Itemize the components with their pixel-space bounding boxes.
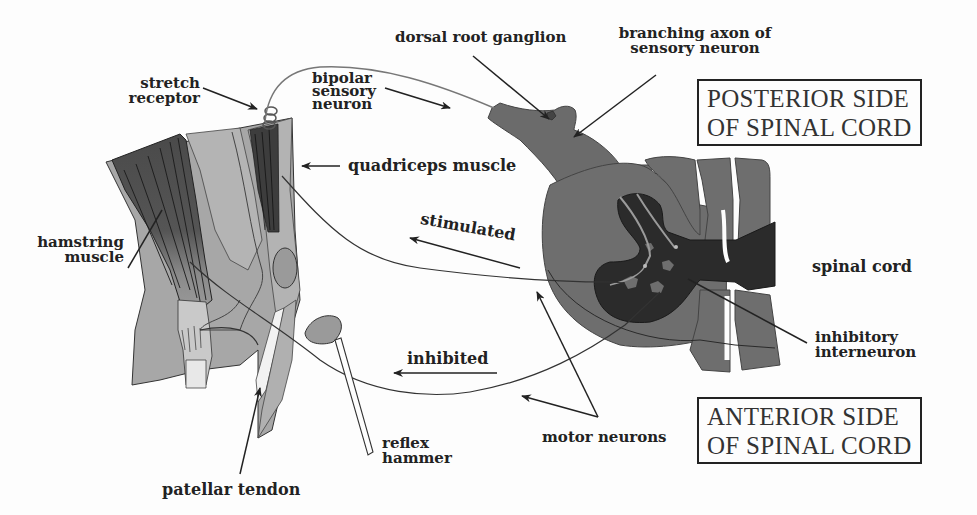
label-branching-axon: branching axon of sensory neuron (600, 26, 790, 56)
label-reflex-line2: hammer (382, 451, 452, 466)
label-dorsal-root-ganglion: dorsal root ganglion (395, 30, 566, 45)
posterior-box-line2: OF SPINAL CORD (707, 113, 912, 142)
label-patellar-tendon: patellar tendon (162, 482, 300, 497)
label-inhibitory-line2: interneuron (815, 345, 916, 360)
posterior-box-line1: POSTERIOR SIDE (707, 84, 912, 113)
anterior-side-box: ANTERIOR SIDE OF SPINAL CORD (697, 397, 922, 464)
label-bipolar-line3: neuron (312, 98, 376, 111)
label-stretch-receptor: stretch receptor (128, 76, 200, 106)
label-stretch-receptor-line2: receptor (128, 91, 200, 106)
label-hamstring-line2: muscle (28, 250, 124, 265)
label-spinal-cord: spinal cord (812, 259, 912, 274)
label-inhibited: inhibited (407, 351, 488, 366)
label-bipolar-sensory-neuron: bipolar sensory neuron (312, 72, 376, 111)
anterior-box-line1: ANTERIOR SIDE (707, 402, 912, 431)
label-motor-neurons: motor neurons (542, 430, 667, 445)
reflex-hammer (305, 316, 373, 455)
leg-knee-illustration (106, 107, 300, 438)
label-hamstring-muscle: hamstring muscle (28, 235, 124, 265)
anterior-box-line2: OF SPINAL CORD (707, 431, 912, 460)
label-branching-axon-line2: sensory neuron (600, 41, 790, 56)
label-quadriceps-muscle: quadriceps muscle (348, 158, 516, 173)
label-reflex-hammer: reflex hammer (382, 436, 452, 466)
reflex-arc-diagram: dorsal root ganglion branching axon of s… (0, 0, 977, 515)
posterior-side-box: POSTERIOR SIDE OF SPINAL CORD (697, 79, 922, 146)
label-inhibitory-interneuron: inhibitory interneuron (815, 330, 916, 360)
